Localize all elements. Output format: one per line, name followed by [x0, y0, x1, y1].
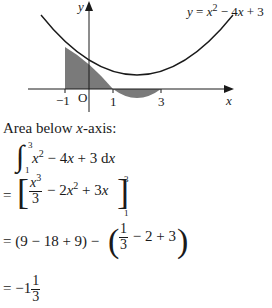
evaluation-lower-part: 13 − 2 + 3: [118, 222, 176, 252]
close-paren: ): [177, 224, 188, 258]
origin-label: O: [78, 91, 87, 104]
bracket-lower-limit: 1: [124, 208, 129, 218]
bracket-upper-limit: 3: [124, 174, 129, 184]
equals-sign: =: [3, 188, 11, 203]
solution-heading: Area below x-axis:: [3, 121, 116, 136]
integral-sign-icon: ∫: [16, 141, 24, 171]
shaded-region-below: [113, 89, 161, 98]
equation-label: y = x2 − 4x + 3: [187, 5, 264, 18]
tick-label-neg1: −1: [56, 94, 70, 107]
integral-upper-limit: 3: [28, 140, 33, 150]
x-axis-label: x: [226, 94, 232, 107]
y-axis-label: y: [78, 0, 84, 13]
integrand: x2 − 4x + 3 dx: [32, 151, 115, 166]
tick-label-1: 1: [110, 95, 117, 108]
x-axis-arrow-icon: [224, 85, 234, 93]
result-value: = −113: [3, 274, 41, 304]
y-axis-arrow-icon: [85, 1, 93, 11]
antiderivative-expression: x33 − 2x2 + 3x: [28, 176, 109, 206]
evaluation-prefix: = (9 − 18 + 9) −: [3, 234, 99, 249]
tick-label-3: 3: [158, 95, 165, 108]
